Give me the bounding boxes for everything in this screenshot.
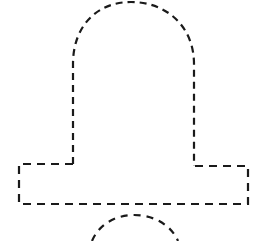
drawing-canvas [0, 0, 268, 241]
bell-outline-svg [0, 0, 268, 241]
